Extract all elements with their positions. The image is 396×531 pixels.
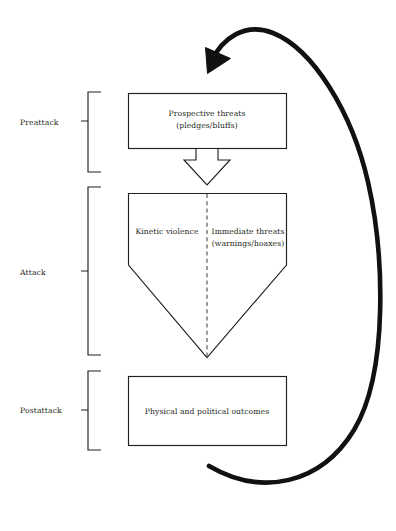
preattack-text-line-1: Prospective threats: [169, 109, 246, 118]
preattack-text-line-2: (pledges/bluffs): [176, 121, 238, 130]
down-arrow-connector: [184, 149, 230, 186]
phase-label-postattack: Postattack: [20, 406, 62, 415]
diagram-canvas: Preattack Attack Postattack Prospective …: [0, 0, 396, 531]
brace-preattack: [81, 92, 101, 172]
attack-cycle-diagram: Preattack Attack Postattack Prospective …: [0, 0, 396, 531]
attack-right-cell-text-line-2: (warnings/hoaxes): [212, 239, 284, 248]
brace-postattack: [81, 371, 101, 450]
postattack-text-line-1: Physical and political outcomes: [145, 407, 269, 416]
phase-label-preattack: Preattack: [20, 118, 59, 127]
brace-attack: [81, 187, 101, 355]
brace-preattack-path: [81, 92, 101, 172]
phase-label-attack: Attack: [19, 268, 46, 277]
brace-postattack-path: [81, 371, 101, 450]
brace-attack-path: [81, 187, 101, 355]
attack-left-cell-text: Kinetic violence: [135, 227, 198, 236]
attack-right-cell-text-line-1: Immediate threats: [212, 227, 285, 236]
